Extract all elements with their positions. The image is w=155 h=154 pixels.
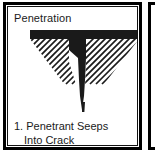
caption-line-2: Into Crack [14,133,138,146]
penetration-figure-panel: Penetration [3,2,142,150]
panel-inner-border: Penetration [7,6,138,146]
caption-line-1: 1. Penetrant Seeps [14,119,138,133]
figure-caption: 1. Penetrant Seeps Into Crack [14,119,138,146]
penetrant-crack-illustration [8,28,138,112]
screenshot-root: Penetration [0,0,155,154]
panel-title: Penetration [14,12,71,25]
crack-tip [82,102,85,112]
adjacent-panel-edge [148,2,155,150]
crack-section-svg [8,28,138,112]
